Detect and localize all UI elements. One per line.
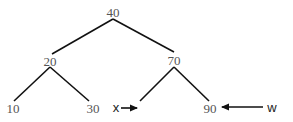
tree-diagram: 40 20 70 10 30 90 x w — [0, 0, 293, 122]
pointer-x-label: x — [113, 100, 120, 115]
pointer-w-label: w — [266, 100, 277, 115]
edge-40-20 — [52, 19, 113, 54]
node-right: 70 — [168, 53, 181, 68]
node-left-right: 30 — [87, 101, 100, 116]
node-left-left: 10 — [7, 101, 20, 116]
node-right-right: 90 — [204, 101, 217, 116]
edge-20-10 — [14, 67, 50, 101]
edge-70-empty — [140, 67, 174, 101]
edge-70-90 — [174, 67, 209, 101]
node-left: 20 — [44, 54, 57, 69]
edge-20-30 — [50, 67, 89, 101]
edge-40-70 — [113, 19, 174, 52]
node-root: 40 — [107, 5, 120, 20]
